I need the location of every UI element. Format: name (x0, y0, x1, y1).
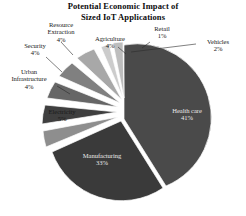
slice-label-security-text: Security (24, 42, 46, 49)
slice-label-vehicles: Vehicles 2% (198, 38, 238, 53)
slice-percent-urban-infrastructure: 4% (1, 83, 57, 90)
slice-label-retail: Retail 1% (147, 25, 177, 40)
slice-percent-health-care: 41% (163, 114, 211, 121)
slice-percent-agriculture: 4% (88, 42, 132, 49)
slice-label-health-care: Health care 41% (163, 107, 211, 122)
slice-label-electricity: Electricity 5% (40, 108, 84, 123)
slice-label-urban-line-1: Urban (21, 68, 37, 75)
slice-percent-security: 4% (16, 49, 54, 56)
slice-label-urban-line-2: Infrastructure (11, 75, 46, 82)
slice-percent-vehicles: 2% (198, 45, 238, 52)
slice-label-agriculture-text: Agriculture (95, 35, 125, 42)
slice-label-vehicles-text: Vehicles (207, 38, 229, 45)
slice-label-urban-infrastructure: Urban Infrastructure 4% (1, 68, 57, 90)
slice-label-manufacturing: Manufacturing 33% (74, 152, 130, 167)
slice-percent-manufacturing: 33% (74, 159, 130, 166)
slice-label-resource-extraction: Resource Extraction 4% (37, 21, 85, 43)
slice-percent-electricity: 5% (40, 115, 84, 122)
slice-label-retail-text: Retail (154, 25, 169, 32)
slice-label-manufacturing-text: Manufacturing (83, 152, 122, 159)
slice-label-health-care-text: Health care (172, 107, 202, 114)
slice-label-resource-extraction-line-2: Extraction (48, 28, 75, 35)
slice-label-electricity-text: Electricity (49, 108, 76, 115)
leader-line-resource-extraction (61, 42, 73, 55)
slice-percent-retail: 1% (147, 32, 177, 39)
slice-label-security: Security 4% (16, 42, 54, 57)
slice-label-agriculture: Agriculture 4% (88, 35, 132, 50)
pie-chart-figure: Potential Economic Impact of Sized IoT A… (0, 0, 246, 216)
slice-label-resource-extraction-line-1: Resource (49, 21, 73, 28)
